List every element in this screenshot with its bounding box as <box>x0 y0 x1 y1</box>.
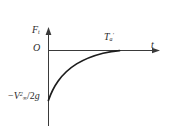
y-axis-label: Ft <box>32 25 40 35</box>
plot-canvas <box>0 0 172 129</box>
asymptotic-curve <box>48 51 119 101</box>
origin-label: O <box>33 43 40 53</box>
x-axis-label: t <box>151 40 154 50</box>
force-vs-time-figure: Ft t O Ta′ −V2∞/2g <box>0 0 172 129</box>
y-axis-arrow-icon <box>46 27 52 35</box>
t-asymptote-label: Ta′ <box>104 32 114 42</box>
y-intercept-label: −V2∞/2g <box>8 91 40 101</box>
